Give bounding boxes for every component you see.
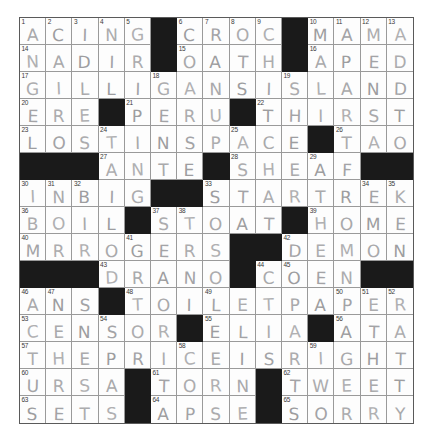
grid-cell[interactable]: R xyxy=(125,261,151,288)
grid-cell[interactable]: T xyxy=(361,315,387,342)
grid-cell[interactable]: 11A xyxy=(334,18,360,45)
grid-cell[interactable]: O xyxy=(334,207,360,234)
grid-cell[interactable]: S xyxy=(99,396,125,423)
grid-cell[interactable]: E xyxy=(151,99,177,126)
grid-cell[interactable]: T xyxy=(256,288,282,315)
grid-cell[interactable]: N xyxy=(334,261,360,288)
grid-cell[interactable]: I xyxy=(125,126,151,153)
grid-cell[interactable]: G xyxy=(334,342,360,369)
grid-cell[interactable]: 22T xyxy=(256,99,282,126)
grid-cell[interactable]: S xyxy=(72,369,98,396)
grid-cell[interactable]: O xyxy=(387,126,413,153)
grid-cell[interactable]: 26T xyxy=(334,126,360,153)
grid-cell[interactable]: R xyxy=(151,315,177,342)
grid-cell[interactable]: 65S xyxy=(282,396,308,423)
grid-cell[interactable]: R xyxy=(203,369,229,396)
grid-cell[interactable]: 34E xyxy=(361,180,387,207)
grid-cell[interactable]: S xyxy=(230,72,256,99)
grid-cell[interactable]: 41G xyxy=(125,234,151,261)
grid-cell[interactable]: A xyxy=(387,315,413,342)
grid-cell[interactable]: 25A xyxy=(230,126,256,153)
grid-cell[interactable]: E xyxy=(72,99,98,126)
grid-cell[interactable]: T xyxy=(256,207,282,234)
grid-cell[interactable]: 5G xyxy=(125,18,151,45)
grid-cell[interactable]: A xyxy=(282,315,308,342)
grid-cell[interactable]: O xyxy=(308,396,334,423)
grid-cell[interactable]: 47N xyxy=(46,288,72,315)
grid-cell[interactable]: R xyxy=(46,234,72,261)
grid-cell[interactable]: G xyxy=(125,180,151,207)
grid-cell[interactable]: 43D xyxy=(99,261,125,288)
grid-cell[interactable]: P xyxy=(203,126,229,153)
grid-cell[interactable]: R xyxy=(72,234,98,261)
grid-cell[interactable]: O xyxy=(125,315,151,342)
grid-cell[interactable]: A xyxy=(308,288,334,315)
grid-cell[interactable]: A xyxy=(203,45,229,72)
grid-cell[interactable]: I xyxy=(256,72,282,99)
grid-cell[interactable]: P xyxy=(99,342,125,369)
grid-cell[interactable]: 8O xyxy=(230,18,256,45)
grid-cell[interactable]: D xyxy=(387,72,413,99)
grid-cell[interactable]: 2C xyxy=(46,18,72,45)
grid-cell[interactable]: O xyxy=(177,369,203,396)
grid-cell[interactable]: S xyxy=(72,126,98,153)
grid-cell[interactable]: H xyxy=(256,45,282,72)
grid-cell[interactable]: T xyxy=(72,396,98,423)
grid-cell[interactable]: F xyxy=(334,153,360,180)
grid-cell[interactable]: N xyxy=(230,369,256,396)
grid-cell[interactable]: H xyxy=(282,99,308,126)
grid-cell[interactable]: E xyxy=(282,153,308,180)
crossword-grid[interactable]: 1A2C3I4N5G6C7R8O9C10M11A12M13A14NADIR15O… xyxy=(20,18,413,423)
grid-cell[interactable]: 30I xyxy=(20,180,46,207)
grid-cell[interactable]: 64A xyxy=(151,396,177,423)
grid-cell[interactable]: N xyxy=(203,72,229,99)
grid-cell[interactable]: 51E xyxy=(361,288,387,315)
grid-cell[interactable]: 52R xyxy=(387,288,413,315)
grid-cell[interactable]: L xyxy=(72,72,98,99)
grid-cell[interactable]: W xyxy=(308,369,334,396)
grid-cell[interactable]: 23L xyxy=(20,126,46,153)
grid-cell[interactable]: 32B xyxy=(72,180,98,207)
grid-cell[interactable]: 17G xyxy=(20,72,46,99)
grid-cell[interactable]: A xyxy=(151,261,177,288)
grid-cell[interactable]: 40M xyxy=(20,234,46,261)
grid-cell[interactable]: 55E xyxy=(203,315,229,342)
grid-cell[interactable]: 24T xyxy=(99,126,125,153)
grid-cell[interactable]: N xyxy=(361,72,387,99)
grid-cell[interactable]: E xyxy=(387,207,413,234)
grid-cell[interactable]: H xyxy=(361,342,387,369)
grid-cell[interactable]: 18G xyxy=(151,72,177,99)
grid-cell[interactable]: A xyxy=(230,207,256,234)
grid-cell[interactable]: S xyxy=(203,396,229,423)
grid-cell[interactable]: R xyxy=(177,99,203,126)
grid-cell[interactable]: C xyxy=(256,126,282,153)
grid-cell[interactable]: 59I xyxy=(308,342,334,369)
grid-cell[interactable]: S xyxy=(256,342,282,369)
grid-cell[interactable]: 53C xyxy=(20,315,46,342)
grid-cell[interactable]: 16A xyxy=(308,45,334,72)
grid-cell[interactable]: D xyxy=(387,45,413,72)
grid-cell[interactable]: 50P xyxy=(334,288,360,315)
grid-cell[interactable]: E xyxy=(282,126,308,153)
grid-cell[interactable]: A xyxy=(334,72,360,99)
grid-cell[interactable]: E xyxy=(46,315,72,342)
grid-cell[interactable]: O xyxy=(361,234,387,261)
grid-cell[interactable]: O xyxy=(99,234,125,261)
grid-cell[interactable]: I xyxy=(72,207,98,234)
grid-cell[interactable]: 38T xyxy=(177,207,203,234)
grid-cell[interactable]: 12M xyxy=(361,18,387,45)
grid-cell[interactable]: 21P xyxy=(125,99,151,126)
grid-cell[interactable]: 46A xyxy=(20,288,46,315)
grid-cell[interactable]: 56A xyxy=(334,315,360,342)
grid-cell[interactable]: I xyxy=(177,288,203,315)
grid-cell[interactable]: I xyxy=(125,72,151,99)
grid-cell[interactable]: E xyxy=(308,261,334,288)
grid-cell[interactable]: I xyxy=(99,45,125,72)
grid-cell[interactable]: 45O xyxy=(282,261,308,288)
grid-cell[interactable]: 63S xyxy=(20,396,46,423)
grid-cell[interactable]: E xyxy=(361,45,387,72)
grid-cell[interactable]: 37S xyxy=(151,207,177,234)
grid-cell[interactable]: T xyxy=(387,342,413,369)
grid-cell[interactable]: 27A xyxy=(99,153,125,180)
grid-cell[interactable]: R xyxy=(46,99,72,126)
